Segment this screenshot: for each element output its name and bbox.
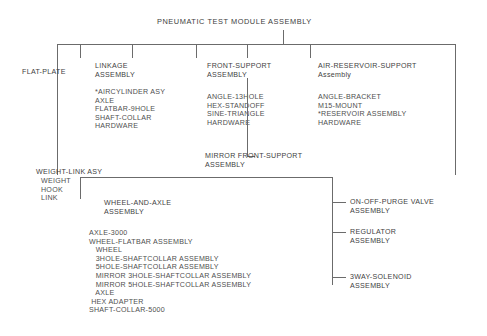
diagram-title: PNEUMATIC TEST MODULE ASSEMBLY (157, 18, 312, 27)
node-regulator-heading-line2: ASSEMBLY (350, 237, 390, 246)
node-wheel-and-axle-heading-line2: ASSEMBLY (104, 208, 144, 217)
node-front-support-heading-line2: ASSEMBLY (207, 71, 247, 80)
node-wheel-and-axle-parts-list: AXLE-3000 WHEEL-FLATBAR ASSEMBLY WHEEL 3… (89, 229, 251, 315)
right-branch-spine (332, 177, 333, 285)
node-front-support-parts-list: ANGLE-13HOLE HEX-STANDOFF SINE-TRIANGLE … (207, 93, 265, 127)
wheel-axle-left-drop (80, 177, 81, 199)
flat-plate-left-spine (57, 44, 58, 175)
assembly-breakdown-diagram: PNEUMATIC TEST MODULE ASSEMBLY FLAT-PLAT… (0, 0, 487, 336)
node-flat-plate-label: FLAT-PLATE (22, 68, 66, 77)
node-on-off-purge-valve-heading-line2: ASSEMBLY (350, 207, 390, 216)
node-on-off-purge-valve-heading-line1: ON-OFF-PURGE VALVE (350, 198, 434, 207)
node-weight-link-parts-list: WEIGHT HOOK LINK (41, 177, 71, 203)
right-outer-spine (455, 44, 456, 175)
node-mirror-front-support-heading-line1: MIRROR FRONT-SUPPORT (205, 152, 302, 161)
node-linkage-heading-line2: ASSEMBLY (95, 71, 135, 80)
main-bus-connector (57, 44, 455, 45)
node-three-way-solenoid-heading-line2: ASSEMBLY (350, 282, 390, 291)
linkage-drop-connector (80, 44, 81, 58)
node-weight-link-heading: WEIGHT-LINK ASY (36, 168, 102, 177)
node-linkage-heading-line1: LINKAGE (95, 62, 128, 71)
wheel-axle-bus-connector (80, 177, 332, 178)
node-air-reservoir-support-heading-line1: AIR-RESERVOIR-SUPPORT (318, 62, 417, 71)
node-wheel-and-axle-heading-line1: WHEEL-AND-AXLE (104, 199, 171, 208)
air-reservoir-drop-connector (310, 44, 311, 58)
mirror-front-support-spine (247, 78, 248, 156)
node-air-reservoir-support-heading-line2: Assembly (318, 71, 351, 80)
flat-plate-drop-connector (132, 44, 133, 58)
regulator-stub (332, 232, 346, 233)
node-mirror-front-support-heading-line2: ASSEMBLY (205, 161, 245, 170)
node-regulator-heading-line1: REGULATOR (350, 228, 396, 237)
front-support-drop-connector (196, 44, 197, 58)
three-way-solenoid-stub (332, 277, 346, 278)
node-air-reservoir-support-parts-list: ANGLE-BRACKET M15-MOUNT *RESERVOIR ASSEM… (318, 93, 406, 127)
node-linkage-parts-list: *AIRCYLINDER ASY AXLE FLATBAR-9HOLE SHAF… (95, 88, 165, 131)
title-stem-connector (283, 30, 284, 44)
node-three-way-solenoid-heading-line1: 3WAY-SOLENOID (350, 273, 412, 282)
mirror-front-support-drop-connector (247, 44, 248, 58)
node-front-support-heading-line1: FRONT-SUPPORT (207, 62, 271, 71)
on-off-purge-valve-stub (332, 202, 346, 203)
